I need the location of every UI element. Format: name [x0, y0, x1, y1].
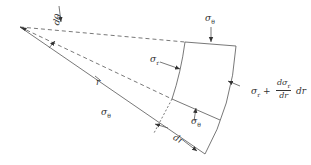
sigma-theta-left-label: σθ: [101, 108, 111, 119]
element-inner-arc: [172, 42, 185, 99]
sigma-subscript: r: [156, 59, 159, 66]
numerator-subscript: r: [288, 82, 291, 89]
sigma-subscript: r: [257, 91, 260, 98]
fraction-denominator: dr: [276, 91, 291, 100]
plus-sign: +: [263, 86, 271, 96]
sigma-theta-top-label: σθ: [205, 14, 215, 25]
sigma-theta-bottom-label: σθ: [191, 117, 201, 128]
derivative-fraction: dσr dr: [276, 79, 291, 100]
dr-extension: [154, 99, 172, 133]
sigma-subscript: θ: [211, 18, 215, 25]
sigma-subscript: θ: [107, 112, 111, 119]
sigma-r-outer-suffix: dr: [296, 87, 306, 96]
stress-element-diagram: dθ r σθ σr σθ σθ dr σr + dσr dr dr: [0, 0, 311, 165]
d-sigma: dσ: [277, 78, 288, 87]
r-text: r: [96, 77, 100, 87]
r-label: r: [96, 78, 100, 87]
fraction-numerator: dσr: [276, 79, 291, 91]
element-top-edge: [185, 42, 236, 46]
diagram-lines: [0, 0, 311, 165]
sigma-subscript: θ: [197, 121, 201, 128]
sigma-r-outer-prefix: σr +: [251, 87, 270, 98]
element-outer-arc: [205, 46, 236, 154]
sigma-r-inner-label: σr: [150, 55, 159, 66]
upper-dashed-radius: [20, 27, 185, 42]
